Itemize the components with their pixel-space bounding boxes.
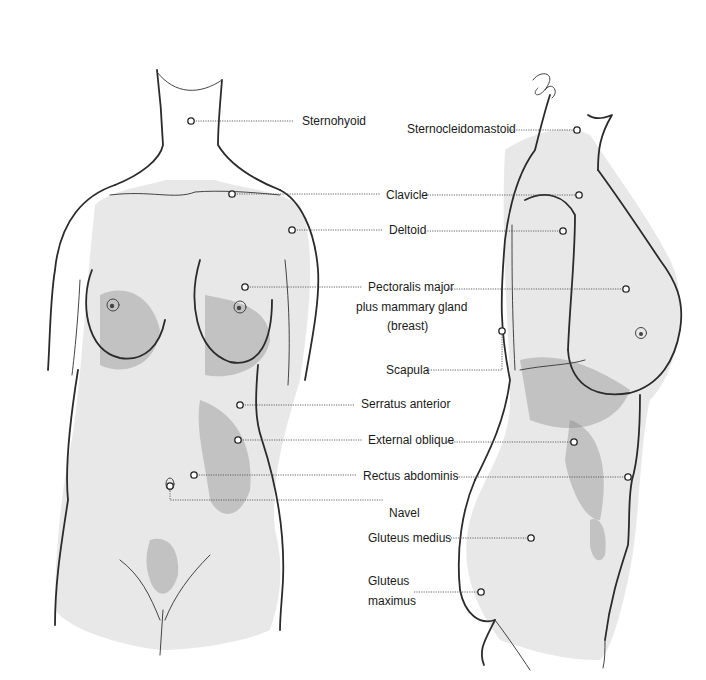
label-clavicle: Clavicle bbox=[386, 188, 428, 202]
serratus-marker-icon bbox=[237, 402, 243, 408]
scapula-marker-icon bbox=[499, 328, 505, 334]
label-serratus-anterior: Serratus anterior bbox=[361, 397, 450, 411]
label-gluteus-maximus-line-1: Gluteus bbox=[368, 574, 409, 588]
pectoralis-front-marker-icon bbox=[242, 284, 248, 290]
label-sternocleidomastoid: Sternocleidomastoid bbox=[407, 122, 516, 136]
sternocleido-marker-icon bbox=[574, 127, 580, 133]
label-pectoralis-line-2: plus mammary gland bbox=[356, 300, 467, 314]
label-pectoralis-line-3: (breast) bbox=[387, 319, 428, 333]
gluteus-max-marker-icon bbox=[478, 589, 484, 595]
label-gluteus-medius: Gluteus medius bbox=[368, 531, 451, 545]
label-deltoid: Deltoid bbox=[389, 223, 426, 237]
anatomy-diagram: Sternohyoid Sternocleidomastoid Clavicle… bbox=[0, 0, 706, 680]
label-sternohyoid: Sternohyoid bbox=[302, 114, 366, 128]
gluteus-medius-marker-icon bbox=[528, 535, 534, 541]
deltoid-front-marker-icon bbox=[289, 227, 295, 233]
clavicle-side-marker-icon bbox=[576, 192, 582, 198]
label-navel: Navel bbox=[389, 506, 420, 520]
label-external-oblique: External oblique bbox=[368, 433, 454, 447]
pectoralis-side-marker-icon bbox=[623, 286, 629, 292]
rectus-side-marker-icon bbox=[625, 474, 631, 480]
oblique-front-marker-icon bbox=[235, 437, 241, 443]
sternohyoid-marker-icon bbox=[188, 118, 194, 124]
clavicle-front-marker-icon bbox=[229, 191, 235, 197]
label-gluteus-maximus-line-2: maximus bbox=[368, 594, 416, 608]
deltoid-side-marker-icon bbox=[560, 228, 566, 234]
navel-marker-icon bbox=[167, 483, 173, 489]
label-pectoralis-line-1: Pectoralis major bbox=[368, 280, 454, 294]
oblique-side-marker-icon bbox=[571, 439, 577, 445]
rectus-front-marker-icon bbox=[191, 472, 197, 478]
label-scapula: Scapula bbox=[386, 363, 430, 377]
label-rectus-abdominis: Rectus abdominis bbox=[363, 469, 458, 483]
